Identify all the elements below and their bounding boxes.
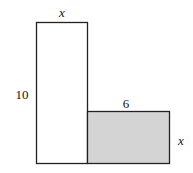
shaded-rectangle-height-label: x bbox=[177, 133, 184, 148]
tall-rectangle-height-label: 10 bbox=[16, 87, 29, 102]
tall-rectangle-width-label: x bbox=[58, 5, 65, 20]
diagram-canvas: x 10 6 x bbox=[0, 0, 193, 173]
shaded-rectangle bbox=[88, 112, 170, 164]
tall-rectangle bbox=[37, 23, 88, 164]
shaded-rectangle-width-label: 6 bbox=[123, 96, 130, 111]
